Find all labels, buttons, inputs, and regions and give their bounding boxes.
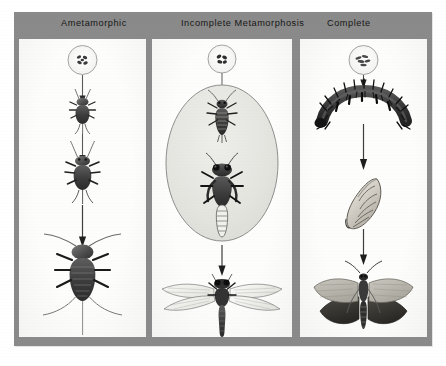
- panel-incomplete-illustration: [152, 39, 292, 337]
- metamorphosis-figure: Ametamorphic Incomplete Metamorphosis Co…: [0, 0, 446, 366]
- arrow-larva-to-pupa: [360, 124, 367, 170]
- arrow-naiad-to-adult: [218, 245, 225, 276]
- column-title-ametamorphic: Ametamorphic: [61, 18, 127, 28]
- stage-adult-moth: [314, 261, 413, 329]
- stage-adult-silverfish: [43, 234, 122, 335]
- stage-egg-cluster: [68, 46, 97, 75]
- column-header-band: Ametamorphic Incomplete Metamorphosis Co…: [14, 12, 432, 38]
- panel-incomplete-metamorphosis: [152, 39, 292, 337]
- stage-caterpillar-larva: [315, 79, 411, 129]
- panel-complete-metamorphosis: [300, 39, 427, 337]
- stage-pupa: [346, 179, 381, 229]
- panel-ametamorphic-illustration: [19, 39, 146, 337]
- stage-egg-cluster: [208, 45, 236, 73]
- panel-ametamorphic: [19, 39, 146, 337]
- arrow-pupa-to-adult: [360, 229, 367, 265]
- column-title-incomplete-metamorphosis: Incomplete Metamorphosis: [181, 18, 305, 28]
- stage-adult-dragonfly: [162, 274, 282, 337]
- stage-egg-cluster: [349, 46, 378, 75]
- column-title-complete: Complete: [327, 18, 371, 28]
- panel-complete-illustration: [300, 39, 427, 337]
- arrow-older-to-adult: [79, 205, 86, 247]
